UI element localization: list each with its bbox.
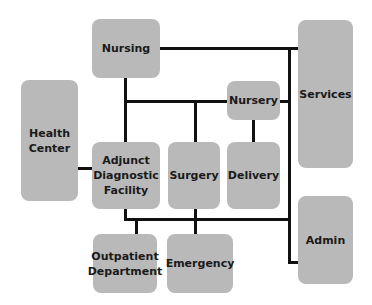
connector-nursery-delivery bbox=[252, 120, 255, 142]
node-admin: Admin bbox=[298, 196, 353, 284]
connector-surgery-emergency bbox=[194, 209, 197, 234]
node-surgery: Surgery bbox=[168, 142, 220, 209]
connector-surgery-up bbox=[194, 100, 197, 142]
connector-nursing-services bbox=[160, 47, 299, 50]
node-services: Services bbox=[298, 20, 353, 168]
node-label: Admin bbox=[306, 233, 345, 248]
connector-trunk-vertical-right bbox=[288, 47, 291, 264]
node-emergency: Emergency bbox=[167, 234, 233, 293]
node-adjunct-diagnostic-facility: Adjunct Diagnostic Facility bbox=[92, 142, 160, 209]
node-nursing: Nursing bbox=[92, 19, 160, 78]
node-label: Outpatient Department bbox=[88, 249, 163, 279]
connector-mid-horizontal bbox=[124, 100, 227, 103]
connector-health-adjunct bbox=[78, 167, 92, 170]
node-label: Services bbox=[299, 87, 351, 102]
connector-trunk-admin bbox=[288, 261, 298, 264]
node-label: Surgery bbox=[169, 168, 218, 183]
connector-nursery-trunk bbox=[280, 100, 290, 103]
node-health-center: Health Center bbox=[21, 80, 78, 201]
node-label: Nursery bbox=[229, 93, 278, 108]
node-label: Nursing bbox=[102, 41, 151, 56]
node-outpatient-department: Outpatient Department bbox=[93, 234, 157, 293]
node-label: Delivery bbox=[228, 168, 279, 183]
node-nursery: Nursery bbox=[227, 81, 280, 120]
node-delivery: Delivery bbox=[227, 142, 280, 209]
connector-nursing-down bbox=[124, 78, 127, 142]
node-label: Emergency bbox=[166, 256, 235, 271]
node-label: Adjunct Diagnostic Facility bbox=[93, 153, 159, 198]
connector-lower-horizontal bbox=[124, 218, 290, 221]
connector-outpatient-up bbox=[135, 218, 138, 234]
node-label: Health Center bbox=[29, 126, 71, 156]
